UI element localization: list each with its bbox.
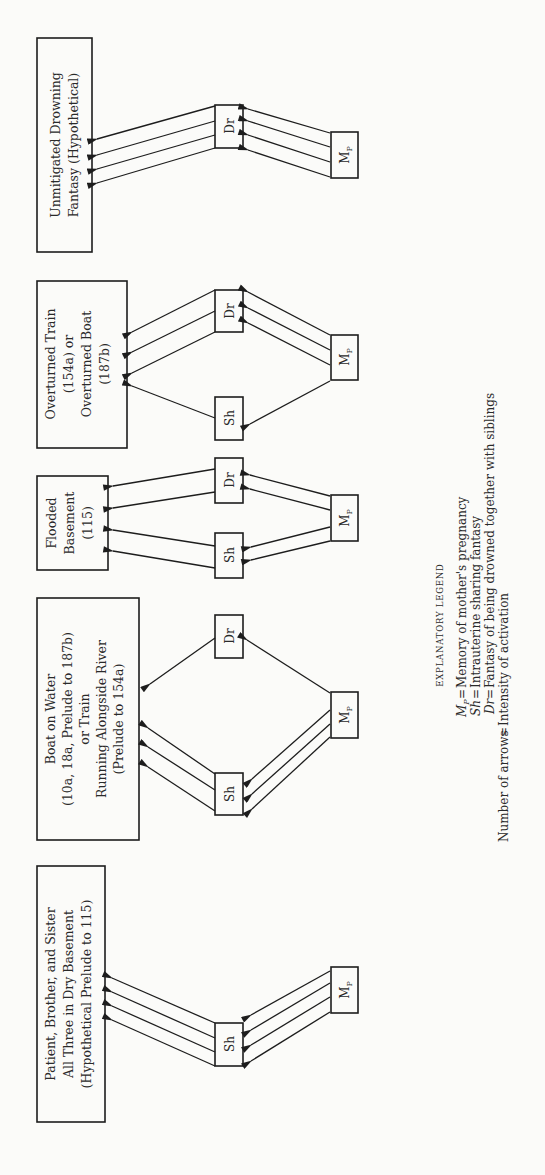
legend-text: Intensity of activation [497, 593, 511, 726]
arrows-sh-to-outcome [148, 728, 215, 811]
outcome-label-line: Overturned Train [43, 309, 58, 420]
outcome-label-line: Running Alongside River [94, 640, 109, 798]
legend-sep: = [497, 727, 511, 737]
outcome-label-line: Basement [62, 492, 77, 555]
outcome-label-line: or Train [77, 693, 92, 744]
outcome-label-line: All Three in Dry Basement [61, 910, 76, 1079]
arrows-dr-to-outcome [150, 638, 215, 684]
arrows-mp-to-sh [250, 381, 330, 424]
arrows-mp-to-sh [252, 710, 330, 809]
arrows-mp-to-sh [251, 527, 330, 560]
node-dr-label: Dr [223, 118, 237, 134]
arrows-mp-to-dr [248, 292, 330, 365]
outcome-label-line: Unmitigated Drowning [48, 72, 63, 218]
arrows-dr-to-outcome [132, 290, 215, 373]
node-sh-label: Sh [223, 1036, 237, 1052]
outcome-box-unmitigated [37, 38, 92, 252]
outcome-label-line: (Prelude to 154a) [111, 664, 126, 775]
legend-sep: = [469, 689, 483, 699]
arrows-sh-to-outcome [132, 386, 215, 418]
outcome-label-line: (Hypothetical Prelude to 115) [79, 900, 94, 1089]
outcome-label-line: Overturned Boat [79, 311, 94, 417]
legend-sep: = [483, 689, 497, 699]
outcome-label-line: (10a, 18a, Prelude to 187b) [60, 632, 75, 806]
legend-symbol: Dr [483, 697, 497, 715]
legend: EXPLANATORY LEGEND MP = Memory of mother… [435, 393, 511, 842]
legend-text: Intrauterine sharing fantasy [469, 516, 483, 688]
panel-boat: Boat on Water (10a, 18a, Prelude to 187b… [37, 598, 358, 840]
arrows-dr-to-outcome [113, 469, 215, 508]
panel-patient: Patient, Brother, and Sister All Three i… [37, 866, 358, 1122]
legend-sep: = [455, 689, 469, 699]
arrows-sh-to-outcome [113, 530, 215, 568]
arrows-sh-to-outcome [112, 978, 215, 1066]
outcome-label-line: Patient, Brother, and Sister [43, 907, 58, 1080]
legend-symbol: Sh [469, 700, 483, 716]
legend-entry-sh: Sh = Intrauterine sharing fantasy [469, 516, 483, 716]
node-dr-label: Dr [223, 303, 237, 319]
outcome-label-line: Boat on Water [43, 674, 58, 764]
outcome-label-line: (154a) or [61, 335, 76, 394]
legend-entry-arrows: Number of arrows = Intensity of activati… [497, 593, 511, 842]
arrows-dr-to-outcome [97, 106, 215, 183]
legend-text: Fantasy of being drowned together with s… [483, 393, 497, 688]
panel-overturned: Overturned Train (154a) or Overturned Bo… [37, 281, 358, 448]
outcome-label-line: (187b) [97, 343, 112, 385]
outcome-label-line: Fantasy (Hypothetical) [66, 73, 81, 217]
arrows-mp-to-sh [251, 971, 330, 1061]
legend-entry-dr: Dr = Fantasy of being drowned together w… [483, 393, 497, 715]
node-dr-label: Dr [223, 472, 237, 488]
arrows-mp-to-dr [247, 640, 330, 693]
outcome-label-line: (115) [80, 506, 95, 540]
panel-flooded: Flooded Basement (115) Dr Sh MP [37, 458, 358, 578]
node-sh-label: Sh [223, 410, 237, 426]
diagram-canvas: Unmitigated Drowning Fantasy (Hypothetic… [0, 0, 545, 1175]
legend-symbol: Number of arrows [497, 730, 511, 842]
legend-text: Memory of mother's pregnancy [455, 496, 469, 688]
outcome-label-line: Flooded [44, 497, 59, 548]
arrows-mp-to-dr [250, 475, 330, 510]
node-sh-label: Sh [223, 547, 237, 563]
panel-unmitigated: Unmitigated Drowning Fantasy (Hypothetic… [37, 38, 358, 252]
node-dr-label: Dr [223, 628, 237, 644]
arrows-mp-to-dr [248, 109, 330, 177]
legend-title: EXPLANATORY LEGEND [435, 563, 445, 686]
node-sh-label: Sh [223, 786, 237, 802]
